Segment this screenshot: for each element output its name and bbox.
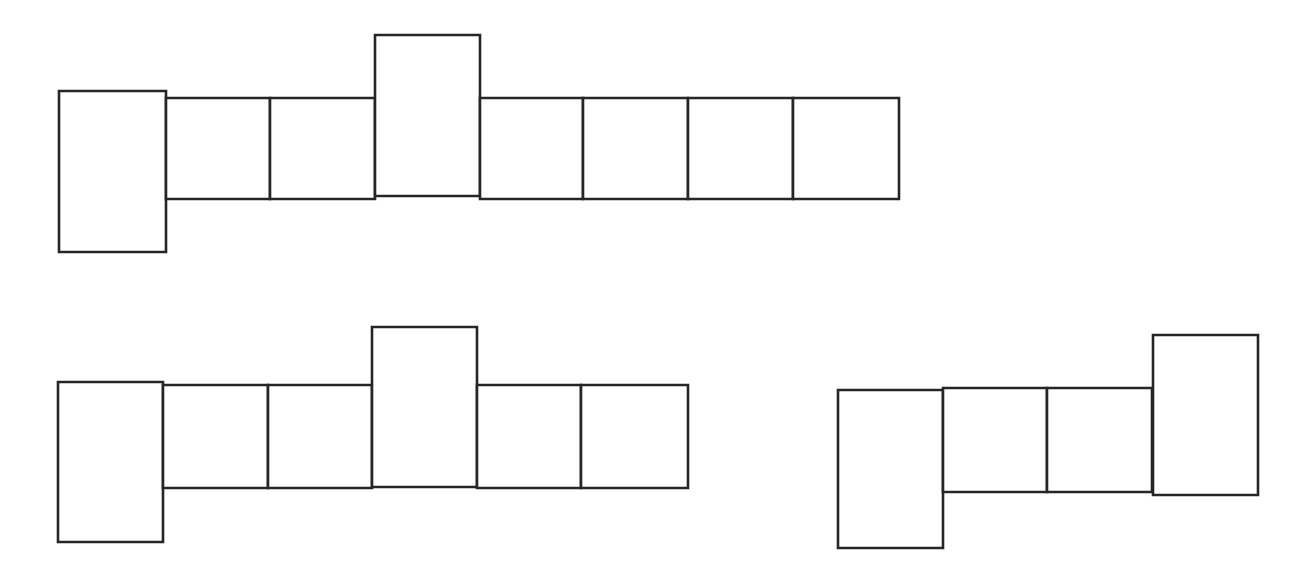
bottom-left-net-six-cells-cell-6: [581, 385, 688, 488]
bottom-right-net-five-cells-cell-3: [1047, 388, 1152, 492]
top-net-eight-cells-cell-4: [375, 35, 480, 196]
bottom-left-net-six-cells-cell-2: [163, 385, 268, 488]
bottom-left-net-six-cells-cell-4: [372, 327, 477, 487]
top-net-eight-cells-cell-2: [166, 98, 270, 199]
figure-canvas: [0, 0, 1304, 577]
bottom-right-net-five-cells-cell-2: [943, 388, 1047, 492]
top-net-eight-cells-cell-5: [480, 98, 583, 199]
bottom-left-net-six-cells-cell-1: [58, 382, 163, 542]
bottom-right-net-five-cells-cell-1: [838, 390, 943, 548]
top-net-eight-cells-cell-6: [583, 98, 688, 199]
bottom-right-net-five-cells: [838, 335, 1258, 548]
top-net-eight-cells-cell-3: [270, 98, 375, 199]
bottom-left-net-six-cells: [58, 327, 688, 542]
top-net-eight-cells: [59, 35, 899, 252]
top-net-eight-cells-cell-7: [688, 98, 793, 199]
top-net-eight-cells-cell-1: [59, 91, 166, 252]
bottom-left-net-six-cells-cell-5: [477, 385, 581, 488]
net-figures-svg: [0, 0, 1304, 577]
top-net-eight-cells-cell-8: [793, 98, 899, 199]
bottom-left-net-six-cells-cell-3: [268, 385, 372, 488]
bottom-right-net-five-cells-cell-5: [1153, 335, 1258, 495]
